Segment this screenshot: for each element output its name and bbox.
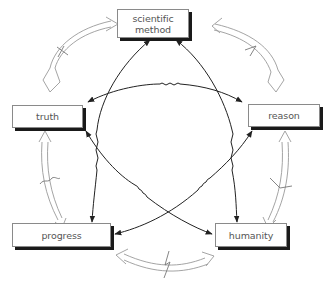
arrow-truth-reason: [88, 83, 242, 102]
node-label-line1: scientific: [132, 13, 173, 24]
hollow-arrow-scientific-truth: [43, 17, 118, 92]
node-label: progress: [41, 230, 81, 241]
node-humanity: humanity: [215, 223, 287, 247]
node-progress: progress: [12, 223, 111, 247]
inner-cross-arrows: [86, 40, 252, 234]
arrow-reason-progress: [115, 131, 252, 234]
hollow-arrow-progress-humanity: [116, 249, 214, 278]
node-label: truth: [36, 111, 59, 122]
arrow-truth-humanity: [86, 131, 212, 234]
node-label: humanity: [229, 230, 273, 241]
arrow-scientific-progress: [92, 40, 150, 222]
hollow-arrow-truth-progress: [39, 131, 66, 228]
node-truth: truth: [12, 105, 83, 128]
node-label-line2: method: [132, 24, 173, 35]
arrow-scientific-humanity: [176, 40, 237, 222]
node-reason: reason: [248, 104, 320, 127]
node-label: reason: [268, 110, 300, 121]
hollow-arrow-scientific-reason: [212, 18, 284, 92]
node-scientific-method: scientific method: [117, 9, 189, 38]
hollow-arrow-reason-humanity: [263, 131, 292, 228]
